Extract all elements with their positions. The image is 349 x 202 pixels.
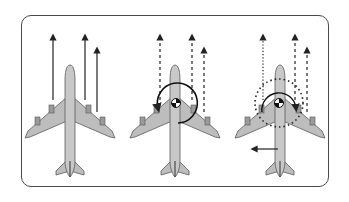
aircraft-diagram xyxy=(0,0,349,202)
panel-asymmetric-thrust-yaw xyxy=(130,37,220,177)
center-of-gravity-icon xyxy=(172,99,181,108)
airplane-icon xyxy=(130,65,220,177)
airplane-icon xyxy=(25,65,115,177)
center-of-gravity-icon xyxy=(275,99,284,108)
panel-symmetric-thrust xyxy=(25,37,115,177)
airplane-icon xyxy=(235,65,325,177)
panel-rudder-correction xyxy=(235,37,325,177)
